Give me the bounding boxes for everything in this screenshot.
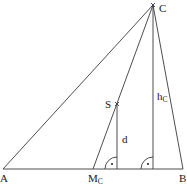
side-bc [153,5,183,169]
triangle-diagram: C A B MC S d hC [0,0,187,184]
right-angle-dot-d [111,163,113,165]
label-c: C [159,2,166,14]
right-angle-arc-hc [141,157,153,169]
label-hc-sub: C [163,95,168,104]
right-angle-arc-d [105,157,117,169]
label-s: S [105,98,111,110]
label-hc: hC [157,90,168,104]
label-a: A [0,172,8,184]
side-ac [3,5,153,169]
label-mc: MC [88,172,103,184]
label-d: d [122,133,128,145]
label-mc-sub: C [98,177,103,184]
right-angle-dot-hc [147,163,149,165]
label-mc-main: M [88,172,98,184]
label-b: B [179,172,186,184]
